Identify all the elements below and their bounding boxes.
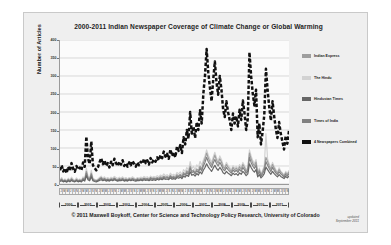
year-label-2009: 2009	[232, 200, 251, 209]
year-label-2004: 2004	[136, 200, 155, 209]
year-label-2010: 2010	[251, 200, 270, 209]
updated-date: September 2011	[336, 219, 359, 223]
year-divider	[232, 202, 233, 207]
legend-label: Times of India	[314, 119, 338, 123]
year-divider	[212, 202, 213, 207]
y-tick-label: 250	[51, 92, 57, 96]
legend-swatch-icon	[302, 76, 311, 80]
year-label-2001: 2001	[78, 200, 97, 209]
year-label-text: 2011	[276, 203, 283, 207]
year-label-2007: 2007	[193, 200, 212, 209]
year-label-text: 2010	[257, 203, 265, 207]
year-divider	[97, 202, 98, 207]
year-label-2006: 2006	[174, 200, 193, 209]
legend-item[interactable]: Hindustan Times	[302, 94, 364, 104]
year-divider	[288, 202, 289, 207]
year-divider	[193, 202, 194, 207]
series-line	[60, 49, 289, 173]
year-label-text: 2009	[237, 203, 245, 207]
updated-note: updated September 2011	[336, 215, 359, 223]
year-label-text: 2003	[122, 203, 130, 207]
legend-item[interactable]: The Hindu	[302, 73, 364, 83]
legend-swatch-icon	[302, 119, 311, 123]
legend-label: Indian Express	[314, 54, 340, 58]
legend-swatch-icon	[302, 54, 311, 58]
year-label-text: 2006	[180, 203, 188, 207]
chart-figure: 2000-2011 Indian Newspaper Coverage of C…	[23, 12, 368, 233]
y-tick-label: 50	[53, 165, 57, 169]
plot-area-wrapper: Number of Articles 050100150200250300350…	[59, 40, 289, 185]
y-tick-label: 400	[51, 38, 57, 42]
legend-label: The Hindu	[314, 76, 332, 80]
y-tick-label: 200	[51, 111, 57, 115]
year-label-2008: 2008	[212, 200, 231, 209]
chart-title: 2000-2011 Indian Newspaper Coverage of C…	[24, 23, 367, 30]
year-label-text: 2005	[161, 203, 169, 207]
year-label-text: 2000	[65, 203, 73, 207]
copyright-footer: © 2011 Maxwell Boykoff, Center for Scien…	[24, 212, 367, 218]
year-divider	[174, 202, 175, 207]
y-axis-label: Number of Articles	[36, 24, 42, 74]
legend-swatch-icon	[302, 97, 311, 101]
year-label-text: 2004	[142, 203, 150, 207]
year-label-2011: 2011	[270, 200, 289, 209]
year-divider	[270, 202, 271, 207]
y-tick-label: 100	[51, 147, 57, 151]
year-label-text: 2008	[218, 203, 226, 207]
month-tick-row: JMMJSNJMMJSNJMMJSNJMMJSNJMMJSNJMMJSNJMMJ…	[59, 188, 289, 195]
year-divider	[251, 202, 252, 207]
year-divider	[78, 202, 79, 207]
year-label-2003: 2003	[117, 200, 136, 209]
series-canvas	[60, 40, 289, 184]
legend-item[interactable]: Indian Express	[302, 51, 364, 61]
y-tick-label: 350	[51, 56, 57, 60]
year-label-text: 2002	[103, 203, 111, 207]
year-label-text: 2007	[199, 203, 207, 207]
year-label-2005: 2005	[155, 200, 174, 209]
month-tick: N	[286, 189, 288, 194]
year-divider	[117, 202, 118, 207]
year-tick-row: 2000200120022003200420052006200720082009…	[59, 200, 289, 209]
year-divider	[136, 202, 137, 207]
legend-label: Hindustan Times	[314, 97, 343, 101]
legend-swatch-icon	[302, 140, 311, 144]
chart-legend: Indian ExpressThe HinduHindustan TimesTi…	[302, 51, 364, 159]
year-divider	[59, 202, 60, 207]
y-tick-label: 300	[51, 74, 57, 78]
year-label-text: 2001	[84, 203, 92, 207]
year-divider	[155, 202, 156, 207]
legend-item[interactable]: 4 Newspapers Combined	[302, 137, 364, 147]
y-tick-label: 150	[51, 129, 57, 133]
legend-item[interactable]: Times of India	[302, 116, 364, 126]
legend-label: 4 Newspapers Combined	[314, 140, 357, 144]
year-label-2000: 2000	[59, 200, 78, 209]
plot-area	[59, 40, 289, 185]
y-tick-mark	[57, 185, 59, 186]
year-label-2002: 2002	[97, 200, 116, 209]
